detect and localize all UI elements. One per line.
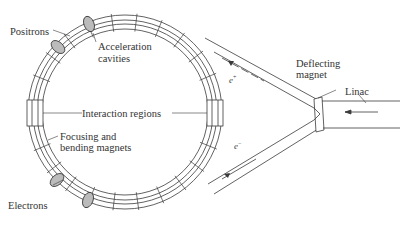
interaction-region-right (207, 100, 223, 126)
label-deflecting-1: Deflecting (296, 58, 340, 69)
label-focusing-2: bending magnets (60, 142, 131, 153)
label-positrons: Positrons (10, 26, 49, 37)
storage-ring-diagram: Positrons Acceleration cavities Interact… (0, 0, 409, 226)
positron-symbol-charge: + (233, 74, 236, 80)
electron-transfer-line (208, 120, 318, 194)
label-acceleration-cavities-2: cavities (98, 53, 130, 64)
electron-symbol-charge: − (238, 140, 241, 146)
diagram-drawing (0, 0, 409, 226)
label-electrons: Electrons (8, 200, 48, 211)
label-linac: Linac (345, 86, 369, 97)
label-focusing-1: Focusing and (60, 131, 116, 142)
interaction-region-left (27, 100, 43, 126)
linac (322, 101, 400, 128)
label-acceleration-cavities-1: Acceleration (98, 41, 152, 52)
label-interaction-regions: Interaction regions (82, 108, 161, 119)
label-deflecting-2: magnet (296, 69, 327, 80)
electron-beam-symbol: e− (234, 140, 241, 151)
positron-beam-symbol: e+ (229, 74, 236, 85)
